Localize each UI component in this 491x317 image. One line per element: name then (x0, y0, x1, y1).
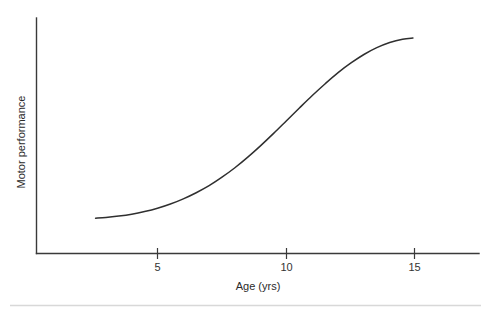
xtick-label-10: 10 (280, 261, 292, 273)
y-axis-title: Motor performance (15, 96, 27, 189)
xtick-label-5: 5 (154, 261, 160, 273)
x-axis-title: Age (yrs) (236, 280, 281, 292)
data-curve-motor-performance (96, 38, 413, 218)
motor-performance-line-chart: 5 10 15 Age (yrs) Motor performance (0, 0, 491, 317)
xtick-label-15: 15 (408, 261, 420, 273)
chart-figure: 5 10 15 Age (yrs) Motor performance (0, 0, 491, 317)
